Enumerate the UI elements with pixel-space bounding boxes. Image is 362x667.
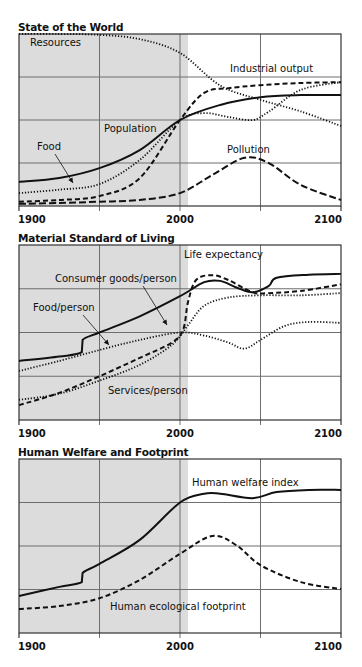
x-tick-label: 1900 bbox=[18, 641, 46, 652]
x-tick-label: 2000 bbox=[166, 428, 194, 439]
series-label: Life expectancy bbox=[184, 249, 263, 260]
x-tick-label: 2000 bbox=[166, 214, 194, 225]
x-tick-label: 1900 bbox=[18, 214, 46, 225]
x-tick-label: 2100 bbox=[314, 214, 342, 225]
plot-canvas: 190020002100ResourcesIndustrial outputPo… bbox=[0, 0, 362, 667]
plot-area: 190020002100Human welfare indexHuman eco… bbox=[18, 459, 342, 652]
plot-area: 190020002100ResourcesIndustrial outputPo… bbox=[18, 34, 342, 225]
series-label: Food bbox=[37, 141, 61, 152]
series-label: Food/person bbox=[33, 302, 95, 313]
x-tick-label: 2000 bbox=[166, 641, 194, 652]
series-label: Consumer goods/person bbox=[55, 273, 177, 284]
series-label: Pollution bbox=[227, 144, 270, 155]
series-label: Human ecological footprint bbox=[110, 601, 246, 612]
series-label: Resources bbox=[30, 37, 81, 48]
series-label: Human welfare index bbox=[192, 477, 299, 488]
x-tick-label: 2100 bbox=[314, 641, 342, 652]
plot-area: 190020002100Life expectancyConsumer good… bbox=[18, 245, 342, 439]
series-label: Population bbox=[104, 123, 157, 134]
series-label: Industrial output bbox=[230, 63, 313, 74]
series-label: Services/person bbox=[108, 385, 188, 396]
x-tick-label: 2100 bbox=[314, 428, 342, 439]
x-tick-label: 1900 bbox=[18, 428, 46, 439]
